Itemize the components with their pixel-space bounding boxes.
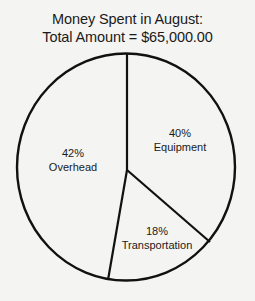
slice-transportation-name: Transportation <box>122 239 193 251</box>
slice-overhead-name: Overhead <box>49 161 97 173</box>
slice-transportation-percent: 18% <box>146 225 168 237</box>
slice-overhead-percent: 42% <box>62 147 84 159</box>
slice-equipment-percent: 40% <box>169 127 191 139</box>
pie-chart: 40% Equipment 18% Transportation 42% Ove… <box>0 0 255 301</box>
slice-equipment-name: Equipment <box>154 141 207 153</box>
